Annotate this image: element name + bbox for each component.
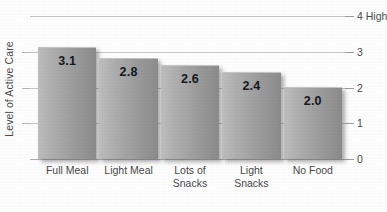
category-label-line: Light Meal (104, 164, 152, 176)
bar: 2.6 (161, 65, 219, 159)
bar-series: 3.12.82.62.42.0 (30, 0, 345, 160)
y-axis-tick-mark-2 (345, 88, 354, 89)
bar-value-label: 2.8 (99, 65, 157, 79)
x-axis-category-label: Full Meal (38, 164, 96, 177)
bar-value-label: 2.6 (161, 72, 219, 86)
y-axis-tick-label-4: 4 High (357, 10, 387, 22)
bar: 2.0 (284, 87, 342, 160)
y-axis-tick-mark-0 (345, 159, 354, 160)
bar: 2.8 (99, 58, 157, 159)
y-axis-title: Level of Active Care (0, 18, 18, 160)
bar-chart: Level of Active Care 01234 High 3.12.82.… (0, 0, 387, 212)
y-axis-tick-label-2: 2 (357, 82, 363, 94)
x-axis-category-label: Lots ofSnacks (161, 164, 219, 190)
y-axis-tick-mark-4 (345, 16, 354, 17)
y-axis-tick-label-0: 0 (357, 153, 363, 165)
y-axis-tick-mark-3 (345, 52, 354, 53)
left-tick-3 (22, 52, 30, 53)
plot-area: 01234 High 3.12.82.62.42.0 (30, 0, 345, 160)
category-label-line: Snacks (161, 177, 219, 190)
y-axis-tick-label-1: 1 (357, 117, 363, 129)
bar-value-label: 3.1 (38, 54, 96, 68)
y-axis-title-label: Level of Active Care (3, 41, 15, 136)
category-label-line: Lots of (174, 164, 206, 176)
bar: 2.4 (222, 72, 280, 159)
bar: 3.1 (38, 47, 96, 159)
x-axis-category-label: Light Snacks (222, 164, 280, 190)
x-axis-category-labels: Full MealLight MealLots ofSnacksLight Sn… (30, 164, 345, 208)
x-axis-category-label: No Food (284, 164, 342, 177)
y-axis-tick-mark-1 (345, 123, 354, 124)
category-label-line: No Food (293, 164, 333, 176)
left-tick-1 (22, 123, 30, 124)
category-label-line: Full Meal (46, 164, 89, 176)
bar-value-label: 2.4 (222, 79, 280, 93)
left-tick-2 (22, 88, 30, 89)
x-axis-category-label: Light Meal (99, 164, 157, 177)
category-label-line: Light Snacks (234, 164, 268, 189)
y-axis-tick-label-3: 3 (357, 46, 363, 58)
bar-value-label: 2.0 (284, 94, 342, 108)
